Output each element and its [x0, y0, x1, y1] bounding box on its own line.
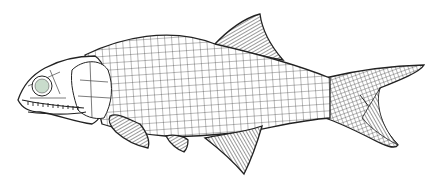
fish-illustration: Fossil fish reconstruction line drawing	[0, 0, 441, 192]
pelvic-fin	[166, 135, 188, 152]
fish-drawing	[0, 0, 441, 192]
eye	[35, 79, 49, 93]
